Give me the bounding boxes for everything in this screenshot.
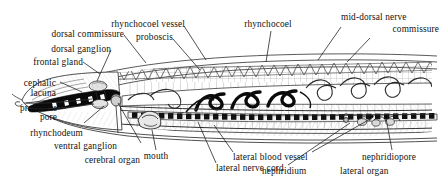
label-mouth: mouth (132, 151, 180, 161)
label-dorsal-ganglion: dorsal ganglion (0, 44, 111, 54)
label-lateral-blood-vessel: lateral blood vessel (233, 152, 348, 162)
cerebral-organ (111, 94, 121, 106)
label-nephridiopore: nephridiopore (362, 152, 442, 162)
label-cephalic-lacuna-line2: lacuna (0, 88, 56, 98)
label-proboscis-pore-line2: pore (0, 112, 57, 122)
label-rhynchocoel: rhynchocoel (228, 19, 308, 29)
label-mid-dorsal-nerve-line1: mid-dorsal nerve (341, 12, 441, 22)
label-nephridium: nephridium (262, 166, 334, 176)
label-proboscis: proboscis (80, 32, 173, 42)
label-mid-dorsal-nerve-line2: commissure (341, 24, 439, 34)
label-cephalic-lacuna-line1: cephalic (0, 78, 56, 88)
label-rhynchodeum: rhynchodeum (0, 128, 83, 138)
anatomical-figure-page: dorsal commissure dorsal ganglion fronta… (0, 0, 443, 187)
label-lateral-organ: lateral organ (340, 166, 412, 176)
label-ventral-ganglion: ventral ganglion (0, 141, 117, 151)
label-frontal-gland: frontal gland (0, 57, 83, 67)
label-cerebral-organ: cerebral organ (0, 155, 140, 165)
label-rhynchocoel-vessel: rhynchocoel vessel (80, 19, 185, 29)
